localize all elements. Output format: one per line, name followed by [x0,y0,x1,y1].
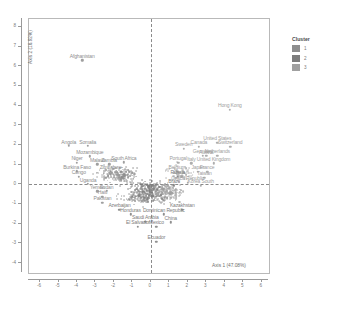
data-point [164,188,166,190]
y-axis-tick [18,46,21,47]
data-point [139,182,141,184]
data-point [108,177,110,179]
data-point [120,173,122,175]
plot-frame: AfghanistanHong KongAngolaSomaliaMozambi… [28,18,270,274]
y-axis-tick [18,144,21,145]
y-axis-tick-label: -3 [4,240,16,245]
data-point-labeled [81,59,83,61]
data-point [182,190,184,192]
data-point [125,184,127,186]
data-point [188,167,190,169]
data-point [161,189,163,191]
point-label: Haiti [98,189,107,195]
data-point [96,172,98,174]
data-point [152,193,154,195]
data-point [123,178,125,180]
data-point [164,183,166,185]
x-axis-tick-label: -6 [29,283,49,288]
scatter-plot-figure: AfghanistanHong KongAngolaSomaliaMozambi… [0,0,345,313]
x-axis-tick-label: -2 [103,283,123,288]
plot-area: AfghanistanHong KongAngolaSomaliaMozambi… [29,19,269,273]
x-axis-tick [39,279,40,282]
x-axis-tick-label: 3 [195,283,215,288]
y-axis-tick-label: -2 [4,220,16,225]
x-axis-tick-label: -5 [48,283,68,288]
y-axis-tick-label: 0 [4,181,16,186]
y-axis-tick [18,242,21,243]
data-point [173,190,175,192]
data-point [159,182,161,184]
point-label: Uganda [80,177,97,183]
data-point [164,196,166,198]
x-axis-tick [150,279,151,282]
y-axis-tick-label: 8 [4,23,16,28]
data-point [190,172,192,174]
point-label: Dominican Republic [143,207,185,213]
point-label: Pakistan [93,195,111,201]
data-point [121,195,123,197]
point-label: Niger [71,155,82,161]
legend-entries: 123 [292,45,310,71]
legend-entry[interactable]: 3 [292,64,310,71]
data-point [110,176,112,178]
data-point [140,189,142,191]
data-point [179,184,181,186]
point-label: Sweden [175,141,192,147]
data-point [170,196,172,198]
x-axis-tick [76,279,77,282]
y-axis-tick [18,105,21,106]
y-axis-tick-label: 6 [4,63,16,68]
y-axis-tick [18,262,21,263]
x-axis-tick-label: 5 [232,283,252,288]
data-point [103,172,105,174]
data-point [137,189,139,191]
data-point [136,176,138,178]
data-point [141,179,143,181]
data-point [128,198,130,200]
data-point [132,178,134,180]
data-point [147,201,149,203]
data-point [125,169,127,171]
data-point [116,195,118,197]
point-label: Zimbabwe [100,164,122,170]
point-label: Ecuador [148,234,166,240]
x-axis-tick-label: 6 [251,283,271,288]
data-point [136,167,138,169]
data-point [116,171,118,173]
point-label: Hong Kong [218,102,242,108]
data-point [168,187,170,189]
x-axis-tick-label: -1 [121,283,141,288]
data-point [139,195,141,197]
data-point [176,189,178,191]
legend-entry[interactable]: 1 [292,45,310,52]
y-axis-tick [18,223,21,224]
point-label: Angola [61,139,76,145]
data-point [142,185,144,187]
data-point [112,174,114,176]
legend-entry[interactable]: 2 [292,55,310,62]
legend-title: Cluster [292,36,310,42]
y-axis-tick-label: 5 [4,82,16,87]
data-point [193,171,195,173]
legend-color-swatch [292,55,300,62]
y-axis-tick [18,65,21,66]
y-axis-tick-label: 7 [4,43,16,48]
data-point [132,196,134,198]
data-point [167,170,169,172]
data-point [129,175,131,177]
y-axis-tick [18,124,21,125]
data-point [146,184,148,186]
legend-color-swatch [292,64,300,71]
point-label: Congo [72,169,86,175]
point-label: Italy [187,156,195,162]
data-point [175,196,177,198]
data-point-labeled [101,202,103,204]
data-point [92,173,94,175]
data-point [148,190,150,192]
point-label: China [165,215,177,221]
data-point [158,200,160,202]
data-point [179,191,181,193]
legend-entry-label: 1 [304,46,307,51]
data-point [137,199,139,201]
data-point [175,199,177,201]
